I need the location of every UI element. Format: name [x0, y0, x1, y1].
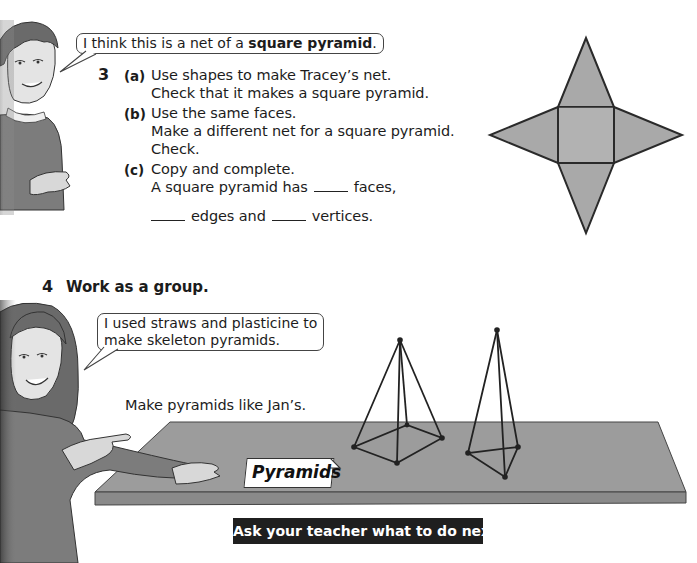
bubble-bold-text: square pyramid [248, 35, 372, 51]
part-a-label: (a) [124, 67, 145, 85]
question-3-number: 3 [98, 66, 109, 84]
part-c-line-1: Copy and complete. [151, 160, 295, 178]
fill-text: A square pyramid has [151, 179, 308, 195]
part-b-line-2: Make a different net for a square pyrami… [151, 122, 455, 140]
speech-tail-icon [82, 346, 122, 372]
fill-text: faces, [354, 179, 396, 195]
question-4-number: 4 [42, 278, 53, 296]
fill-text: vertices. [312, 208, 373, 224]
speech-bubble-tracey: I think this is a net of a square pyrami… [76, 33, 384, 54]
part-b-line-3: Check. [151, 140, 200, 158]
pyramids-label-text: Pyramids [252, 460, 341, 484]
part-b-line-1: Use the same faces. [151, 104, 296, 122]
part-c-fill-line-1: A square pyramid hasfaces, [151, 178, 396, 196]
part-b-label: (b) [124, 105, 146, 123]
part-a-line-2: Check that it makes a square pyramid. [151, 84, 429, 102]
question-4-heading: Work as a group. [66, 278, 208, 296]
bubble-text: I think this is a net of a [83, 35, 248, 51]
part-c-fill-line-2: edges andvertices. [151, 207, 373, 225]
bubble-suffix: . [372, 35, 376, 51]
skeleton-pyramids [340, 320, 540, 485]
bubble-line-1: I used straws and plasticine to [104, 315, 317, 332]
part-a-line-1: Use shapes to make Tracey’s net. [151, 66, 391, 84]
blank-faces [314, 179, 348, 192]
footer-instruction-bar: Ask your teacher what to do next. [233, 518, 483, 544]
question-4-instruction: Make pyramids like Jan’s. [125, 396, 306, 414]
speech-tail-icon [58, 50, 98, 74]
speech-bubble-jan: I used straws and plasticine to make ske… [97, 313, 324, 351]
bubble-line-2: make skeleton pyramids. [104, 332, 317, 349]
part-c-label: (c) [124, 161, 144, 179]
fill-text: edges and [191, 208, 266, 224]
blank-edges [151, 208, 185, 221]
square-pyramid-net [485, 35, 695, 240]
blank-vertices [272, 208, 306, 221]
